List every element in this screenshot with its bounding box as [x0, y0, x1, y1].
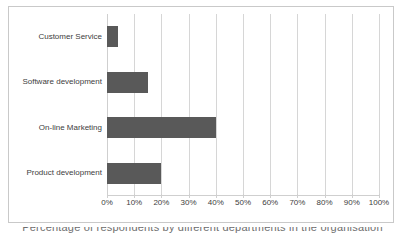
x-tick-label: 20% [153, 198, 169, 207]
plot-area [107, 14, 379, 196]
bar[interactable] [107, 117, 216, 138]
bar[interactable] [107, 163, 161, 184]
figure-caption-text: Percentage of respondents by different d… [8, 227, 397, 233]
chart-frame: Customer ServiceSoftware developmentOn-l… [8, 6, 394, 223]
gridline [379, 14, 380, 196]
bars-layer [107, 14, 379, 196]
bar[interactable] [107, 26, 118, 47]
x-tick-label: 90% [344, 198, 360, 207]
bar-row [107, 162, 379, 184]
x-tick-label: 70% [289, 198, 305, 207]
figure-caption: Percentage of respondents by different d… [0, 227, 405, 235]
x-tick-label: 60% [262, 198, 278, 207]
category-label: Customer Service [9, 32, 102, 42]
x-tick-label: 80% [317, 198, 333, 207]
bar-row [107, 117, 379, 139]
bar[interactable] [107, 72, 148, 93]
x-tick-label: 40% [208, 198, 224, 207]
category-label: On-line Marketing [9, 123, 102, 133]
x-tick-label: 0% [101, 198, 113, 207]
x-tick-label: 10% [126, 198, 142, 207]
x-axis-tick-labels: 0%10%20%30%40%50%60%70%80%90%100% [107, 198, 379, 212]
bar-row [107, 26, 379, 48]
category-label: Software development [9, 77, 102, 87]
bar-row [107, 71, 379, 93]
x-tick-label: 30% [181, 198, 197, 207]
category-label: Product development [9, 168, 102, 178]
x-tick-label: 50% [235, 198, 251, 207]
category-axis-labels: Customer ServiceSoftware developmentOn-l… [9, 14, 102, 196]
x-tick-label: 100% [369, 198, 389, 207]
